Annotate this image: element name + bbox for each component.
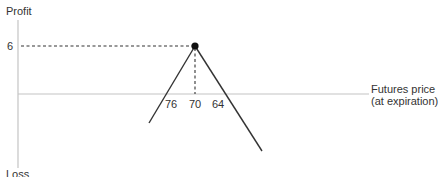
x-tick-64: 64 [212,98,224,110]
x-axis-label-line2: (at expiration) [371,95,438,107]
x-axis-label-line1: Futures price [371,83,435,95]
y-axis-label-profit: Profit [6,5,32,17]
x-tick-70: 70 [189,98,201,110]
x-tick-76: 76 [165,98,177,110]
payoff-right-leg [195,46,262,151]
payoff-left-leg [149,46,195,123]
apex-marker [191,42,198,49]
y-axis-label-loss: Loss [6,168,29,177]
y-tick-6: 6 [7,40,13,52]
